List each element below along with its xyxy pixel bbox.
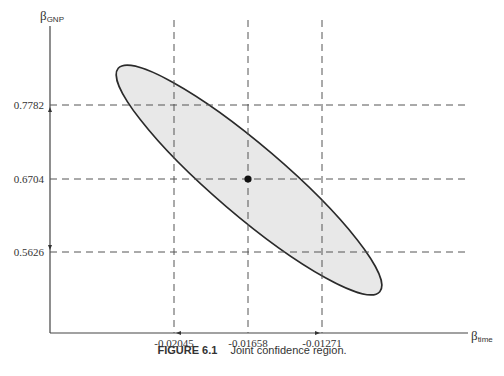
y-tick-label: 0.5626	[14, 246, 45, 258]
y-tick-label: 0.7782	[14, 99, 44, 111]
joint-confidence-chart: βGNP βtime 0.7782 0.6704 0.5626 -0.02045…	[0, 0, 504, 376]
x-arrow-left-icon	[176, 331, 181, 335]
y-arrow-up-icon	[48, 107, 52, 112]
y-tick-label: 0.6704	[14, 173, 45, 185]
figure-number: FIGURE 6.1	[157, 344, 217, 356]
figure-caption: FIGURE 6.1 Joint confidence region.	[0, 344, 504, 356]
y-arrow-down-icon	[48, 245, 52, 250]
caption-text: Joint confidence region.	[230, 344, 346, 356]
point-estimate-marker	[244, 175, 251, 182]
y-axis-label: βGNP	[40, 8, 64, 24]
x-arrow-right-icon	[315, 331, 320, 335]
x-axis-label: βtime	[471, 328, 493, 344]
